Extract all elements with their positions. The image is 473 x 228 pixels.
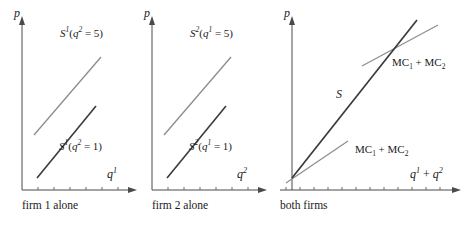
mc-lower-sub-1: 1 xyxy=(372,149,376,158)
x-axis-label-sup-2: 2 xyxy=(439,166,443,175)
lower-supply-curve-label: S2(q1 = 1) xyxy=(189,138,232,152)
x-axis-label: q1 xyxy=(107,166,117,182)
panel-3-plot xyxy=(270,0,473,228)
panel-firm-2: p q2 S2(q1 = 5) S2(q1 = 1) firm 2 alone xyxy=(130,0,275,228)
upper-label-sup: 2 xyxy=(196,25,200,34)
lower-label-arg-sup: 1 xyxy=(207,138,211,147)
upper-label-sup: 1 xyxy=(66,25,70,34)
mc-upper-base-2: MC xyxy=(425,56,442,68)
x-axis-label-sup-1: 1 xyxy=(416,166,420,175)
lower-label-arg-sup: 2 xyxy=(77,138,81,147)
upper-supply-curve-label: S1(q2 = 5) xyxy=(60,25,103,39)
panel-both-firms: p q1 + q2 S MC1 + MC2 MC1 + MC2 both fir… xyxy=(270,0,473,228)
mc-upper-plus: + xyxy=(416,56,422,68)
x-axis-label: q2 xyxy=(237,166,247,182)
mc-sum-upper-label: MC1 + MC2 xyxy=(392,56,445,71)
y-axis-label: p xyxy=(144,6,150,21)
mc-sum-lower-label: MC1 + MC2 xyxy=(355,143,408,158)
lower-label-arg-value: 1 xyxy=(223,140,229,152)
supply-curves-figure: p q1 S1(q2 = 5) S1(q2 = 1) firm 1 alone xyxy=(0,0,473,228)
lower-label-sup: 2 xyxy=(195,138,199,147)
y-axis-label: p xyxy=(14,6,20,21)
upper-supply-curve xyxy=(164,57,231,135)
mc-upper-sub-2: 2 xyxy=(442,62,446,71)
supply-curve-label: S xyxy=(336,87,342,102)
upper-supply-curve-label: S2(q1 = 5) xyxy=(190,25,233,39)
x-axis-arrowhead xyxy=(258,187,267,193)
upper-label-arg-sup: 2 xyxy=(78,25,82,34)
mc-lower-plus: + xyxy=(379,143,385,155)
upper-supply-curve xyxy=(34,57,101,135)
x-axis-label-plus: + xyxy=(423,167,430,181)
x-axis-arrowhead xyxy=(452,187,461,193)
upper-label-arg-value: 5 xyxy=(94,27,100,39)
mc-lower-base-2: MC xyxy=(388,143,405,155)
lower-label-sup: 1 xyxy=(65,138,69,147)
lower-label-arg-value: 1 xyxy=(93,140,99,152)
panel-caption: both firms xyxy=(280,199,328,211)
mc-lower-sub-2: 2 xyxy=(405,149,409,158)
upper-label-arg-value: 5 xyxy=(224,27,230,39)
upper-label-arg-sup: 1 xyxy=(208,25,212,34)
panel-caption: firm 1 alone xyxy=(22,199,78,211)
y-axis-label: p xyxy=(284,6,290,21)
panel-firm-1: p q1 S1(q2 = 5) S1(q2 = 1) firm 1 alone xyxy=(0,0,145,228)
x-axis-label-sup: 1 xyxy=(113,166,117,175)
panel-caption: firm 2 alone xyxy=(152,199,208,211)
x-axis-label: q1 + q2 xyxy=(410,166,443,182)
lower-supply-curve-label: S1(q2 = 1) xyxy=(59,138,102,152)
mc-upper-sub-1: 1 xyxy=(409,62,413,71)
x-axis-label-sup: 2 xyxy=(243,166,247,175)
mc-upper-base-1: MC xyxy=(392,56,409,68)
mc-lower-base-1: MC xyxy=(355,143,372,155)
